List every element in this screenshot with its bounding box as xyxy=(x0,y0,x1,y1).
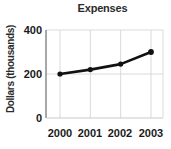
data-point-2001 xyxy=(88,67,93,72)
data-point-2002 xyxy=(118,62,123,67)
data-point-2003 xyxy=(148,49,154,55)
data-line-expenses xyxy=(60,52,151,74)
chart-figure: Expenses Dollars (thousands) 400 200 0 2… xyxy=(0,0,171,149)
series-expenses xyxy=(57,49,154,77)
plot-area xyxy=(0,0,171,149)
data-point-2000 xyxy=(57,71,62,76)
